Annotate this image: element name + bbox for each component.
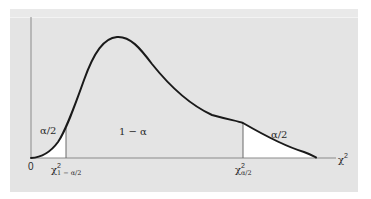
subscript: 1 − α/2 — [57, 169, 81, 177]
upper-critical-value-label: χ2α/2 — [235, 165, 252, 175]
superscript: 2 — [344, 152, 348, 159]
origin-label: 0 — [28, 162, 34, 172]
right-tail-area-label: α/2 — [271, 130, 287, 140]
superscript: 2 — [241, 162, 245, 169]
center-area-label: 1 − α — [119, 127, 147, 137]
subscript: α/2 — [241, 169, 252, 177]
x-axis-label: χ2 — [338, 155, 348, 165]
lower-critical-value-label: χ21 − α/2 — [51, 165, 81, 175]
left-tail-area-label: α/2 — [40, 126, 56, 136]
superscript: 2 — [57, 162, 61, 169]
